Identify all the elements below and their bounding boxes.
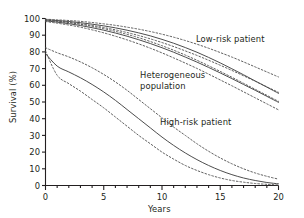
series-line (46, 48, 279, 179)
y-tick-label: 100 (24, 14, 40, 24)
x-axis-label: Years (148, 204, 171, 214)
y-tick-label: 0 (35, 181, 40, 191)
x-tick-label: 5 (101, 192, 106, 202)
survival-curve-figure: 010203040506070809010005101520 Low-risk … (0, 0, 304, 218)
annotation-heterogeneous-population: Heterogeneous population (140, 70, 210, 91)
y-tick-label: 50 (29, 97, 40, 107)
y-tick-label: 30 (29, 131, 40, 141)
x-tick-label: 10 (157, 192, 168, 202)
y-tick-label: 90 (29, 30, 40, 40)
y-tick-label: 10 (29, 164, 40, 174)
x-tick-label: 0 (43, 192, 48, 202)
y-axis-label: Survival (%) (8, 62, 18, 132)
y-tick-label: 70 (29, 64, 40, 74)
y-tick-label: 20 (29, 147, 40, 157)
y-tick-label: 80 (29, 47, 40, 57)
annotation-low-risk-patient: Low-risk patient (196, 34, 265, 45)
y-tick-label: 60 (29, 80, 40, 90)
x-tick-label: 15 (215, 192, 226, 202)
x-tick-label: 20 (273, 192, 284, 202)
plot-area: 010203040506070809010005101520 (0, 0, 304, 218)
y-tick-label: 40 (29, 114, 40, 124)
annotation-high-risk-patient: High-risk patient (160, 117, 231, 128)
